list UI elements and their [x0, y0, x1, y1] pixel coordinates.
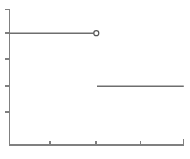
- series-upper-endpoint-marker: [94, 31, 99, 36]
- plot-background: [0, 0, 190, 159]
- chart-container: [0, 0, 190, 159]
- step-plot-figure: [0, 0, 190, 159]
